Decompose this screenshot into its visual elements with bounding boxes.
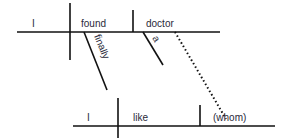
main-object-word: doctor [146,18,174,29]
relative-object-word: (whom) [213,112,246,123]
adverb-word: finally [92,33,112,61]
relative-subject-word: I [87,112,90,123]
main-subject-word: I [32,18,35,29]
article-word: a [150,34,163,45]
main-verb-word: found [81,18,106,29]
sentence-diagram: I found doctor finally a I like (whom) [0,0,295,138]
relative-verb-word: like [133,112,148,123]
